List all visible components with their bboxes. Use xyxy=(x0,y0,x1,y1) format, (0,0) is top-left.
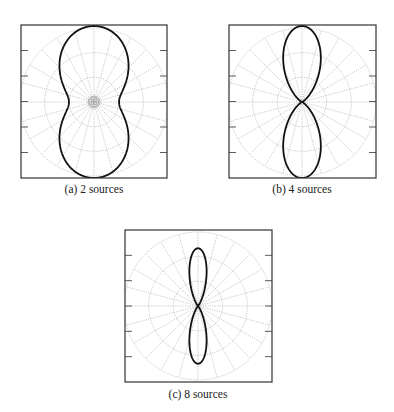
grid-spoke xyxy=(179,306,198,377)
polar-chart-svg xyxy=(0,0,394,412)
grid-spoke xyxy=(198,287,269,306)
grid-spoke xyxy=(198,269,262,306)
grid-spoke xyxy=(179,235,198,306)
caption-8-sources: (c) 8 sources xyxy=(169,388,228,400)
grid-spoke xyxy=(198,306,217,377)
grid-spoke xyxy=(134,269,198,306)
grid-spoke xyxy=(127,287,198,306)
radiation-pattern-curve xyxy=(189,248,206,364)
grid-spoke xyxy=(198,235,217,306)
grid-spoke xyxy=(134,306,198,343)
grid-spoke xyxy=(127,306,198,325)
grid-spoke xyxy=(198,306,262,343)
grid-spoke xyxy=(198,306,269,325)
